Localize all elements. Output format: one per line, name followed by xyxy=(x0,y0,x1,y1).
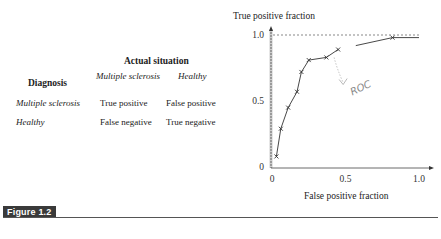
annotation-arrow xyxy=(334,58,343,83)
chart-plot: ROC xyxy=(274,36,419,159)
x-tick-label: 0.5 xyxy=(340,174,352,184)
roc-curve-line xyxy=(276,50,338,157)
chart-axes: 00.51.000.51.0 xyxy=(252,26,434,184)
y-axis-label: True positive fraction xyxy=(233,11,315,21)
figure-rule xyxy=(3,217,438,218)
annotation-roc-label: ROC xyxy=(348,78,372,97)
x-axis-label: False positive fraction xyxy=(304,191,388,201)
x-axis-arrow-icon xyxy=(429,166,434,170)
x-tick-label: 1.0 xyxy=(413,174,425,184)
roc-curve-line xyxy=(356,38,419,46)
annotation-arrowhead-icon xyxy=(339,79,347,85)
x-tick-label: 0 xyxy=(270,174,275,184)
y-tick-label: 1.0 xyxy=(252,30,264,40)
x-marker-icon xyxy=(336,48,340,52)
y-tick-label: 0.5 xyxy=(252,96,264,106)
roc-chart: 00.51.000.51.0 ROC xyxy=(0,0,441,239)
y-axis-arrow-icon xyxy=(269,26,273,31)
y-tick-label: 0 xyxy=(259,162,264,172)
